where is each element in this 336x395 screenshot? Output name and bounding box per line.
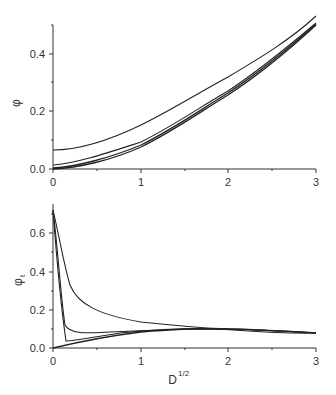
top-xtick-3: 3 (313, 176, 319, 188)
bottom-y-axis-label: φ t (11, 274, 27, 286)
svg-text:t: t (18, 274, 27, 277)
bottom-ytick-2: 0.4 (30, 266, 45, 278)
top-x-ticks (53, 169, 316, 173)
bottom-curves (53, 210, 316, 348)
bottom-y-ticks (49, 214, 53, 348)
top-ytick-1: 0.2 (30, 105, 45, 117)
top-xtick-2: 2 (225, 176, 231, 188)
bottom-plot: 0.0 0.2 0.4 0.6 0 1 2 3 φ t D 1/2 (11, 204, 319, 387)
top-plot: 0.0 0.2 0.4 0 1 2 3 φ (9, 16, 319, 188)
svg-text:D: D (168, 373, 177, 387)
figure: 0.0 0.2 0.4 0 1 2 3 φ (0, 0, 336, 395)
bottom-curve-4 (53, 329, 316, 348)
bottom-xtick-3: 3 (313, 355, 319, 367)
top-xtick-0: 0 (50, 176, 56, 188)
bottom-curve-3 (53, 210, 316, 341)
top-ytick-2: 0.4 (30, 48, 45, 60)
bottom-ytick-3: 0.6 (30, 227, 45, 239)
top-curves (53, 16, 316, 169)
top-xtick-1: 1 (138, 176, 144, 188)
bottom-xtick-2: 2 (225, 355, 231, 367)
top-y-ticks (49, 25, 53, 169)
top-curve-1 (53, 16, 316, 150)
bottom-ytick-0: 0.0 (30, 342, 45, 354)
x-axis-label: D 1/2 (168, 369, 189, 387)
bottom-xtick-0: 0 (50, 355, 56, 367)
bottom-xtick-1: 1 (138, 355, 144, 367)
svg-text:φ: φ (11, 278, 25, 286)
top-ytick-0: 0.0 (30, 163, 45, 175)
bottom-curve-2 (53, 210, 316, 333)
bottom-x-ticks (53, 348, 316, 352)
top-curve-3 (53, 24, 316, 168)
svg-text:1/2: 1/2 (178, 369, 190, 378)
top-y-axis-label: φ (9, 99, 23, 107)
bottom-ytick-1: 0.2 (30, 304, 45, 316)
bottom-curve-1 (53, 210, 316, 333)
